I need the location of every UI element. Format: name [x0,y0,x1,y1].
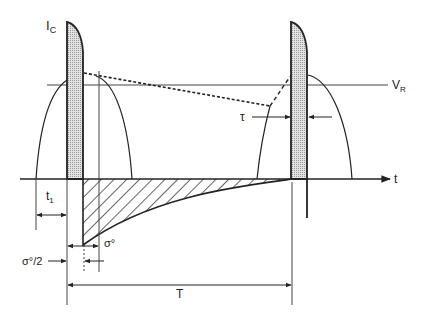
waveform-diagram: IC t VR τ t1 σ° σ°/2 T [0,0,423,322]
x-axis-label: t [394,172,398,186]
dashed-rise [270,76,291,106]
t1-label: t1 [46,189,54,205]
sigma-label: σ° [104,237,115,249]
left-arch-curve [36,80,67,179]
vr-label: VR [392,78,406,94]
period-label: T [176,287,184,301]
y-axis-label: IC [46,18,57,35]
sigma-half-label: σ°/2 [22,255,42,267]
left-pulse-bar [67,22,83,179]
tau-label: τ [240,110,245,124]
right-pulse-bar [291,22,307,179]
left-arch-curve-right [96,76,132,179]
right-arch-right [308,75,352,179]
